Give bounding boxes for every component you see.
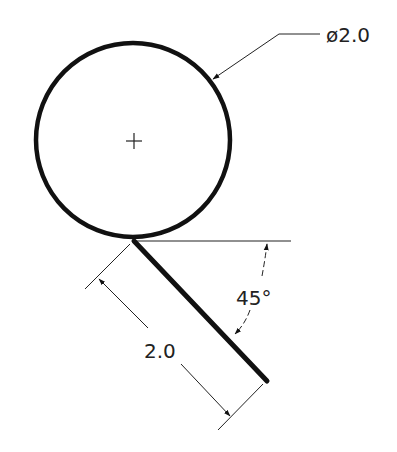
extension-line-start bbox=[85, 244, 130, 289]
angle-label: 45° bbox=[236, 286, 271, 310]
dimension-line-lower bbox=[181, 364, 230, 416]
length-dimension bbox=[85, 244, 263, 430]
diameter-leader bbox=[213, 34, 320, 79]
dimension-line-upper bbox=[99, 279, 148, 328]
diameter-label: ø2.0 bbox=[326, 23, 370, 47]
length-label: 2.0 bbox=[144, 339, 176, 363]
center-mark-icon bbox=[126, 133, 142, 149]
angle-arc-upper bbox=[262, 244, 267, 276]
technical-drawing: ø2.0 2.0 45° bbox=[0, 0, 397, 452]
angle-arc-lower bbox=[235, 310, 250, 334]
extension-line-end bbox=[218, 384, 263, 430]
circle-outline bbox=[36, 43, 230, 237]
